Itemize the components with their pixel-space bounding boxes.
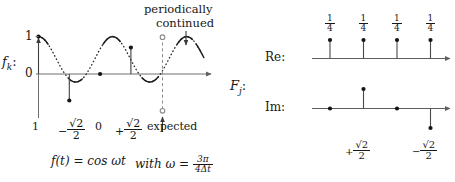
sample-label-k2: 0 (95, 121, 102, 132)
re-value-den-1: 4 (359, 24, 369, 33)
annotation-periodically: periodically (144, 4, 212, 16)
re-value-label-2: 14 (392, 14, 402, 33)
im-dot-0 (328, 106, 332, 110)
sample-dot-k1 (67, 98, 71, 102)
im-value-frac-negative: √22 (420, 140, 437, 161)
re-axis-label: Re: (265, 51, 285, 63)
re-dot-1 (361, 38, 365, 42)
im-axis-label: Im: (265, 101, 285, 113)
curve-arc-peak-2 (103, 37, 120, 45)
sample-label-k3-den: 2 (124, 130, 142, 141)
im-dot-1 (361, 87, 365, 91)
ytick-label-one: 1 (25, 30, 33, 42)
re-value-frac-1: 14 (359, 14, 369, 33)
sample-label-k3: +√22 (115, 118, 142, 141)
right-panel-spectrum (312, 38, 450, 130)
im-dot-2 (395, 106, 399, 110)
spectrum-group-label-colon: : (242, 78, 246, 93)
curve-arc-trough-1 (69, 79, 82, 82)
formula-omega-frac: 3π4Δt (193, 155, 213, 174)
formula-omega-text: with ω = (135, 157, 189, 171)
im-value-sign-negative: − (412, 146, 420, 157)
im-value-label-positive: +√22 (345, 140, 370, 161)
re-value-frac-0: 14 (325, 14, 335, 33)
re-dot-3 (428, 38, 432, 42)
open-marker-bottom (160, 109, 165, 114)
figure-root: fk: 1 0 periodically continued 1 −√22 0 … (0, 0, 455, 182)
formula-omega-den: 4Δt (193, 165, 213, 174)
curve-arc-tail (196, 44, 204, 57)
formula-omega: with ω = 3π4Δt (135, 155, 213, 174)
time-series-axis-label-colon: : (12, 54, 16, 69)
sample-label-k3-sign: + (115, 125, 124, 138)
ytick-label-zero: 0 (25, 67, 33, 79)
sample-label-k1-sign: − (58, 125, 67, 138)
sample-dot-k3 (129, 45, 133, 49)
spectrum-group-label: Fj: (230, 79, 246, 96)
re-value-label-1: 14 (359, 14, 369, 33)
open-marker-top (160, 35, 165, 40)
im-value-den-positive: 2 (353, 151, 370, 161)
sample-label-k0: 1 (32, 121, 39, 132)
sample-label-expected: expected (147, 121, 197, 132)
re-value-den-0: 4 (325, 24, 335, 33)
time-series-axis-label: fk: (2, 55, 17, 72)
re-value-den-2: 4 (392, 24, 402, 33)
sample-label-k1: −√22 (58, 118, 85, 141)
im-value-den-negative: 2 (420, 151, 437, 161)
re-value-frac-2: 14 (392, 14, 402, 33)
sample-label-k3-frac: √22 (124, 118, 142, 141)
re-value-den-3: 4 (426, 24, 436, 33)
re-value-frac-3: 14 (426, 14, 436, 33)
re-dot-0 (328, 38, 332, 42)
curve-arc-trough-3 (142, 77, 158, 82)
im-value-frac-positive: √22 (353, 140, 370, 161)
re-dot-2 (395, 38, 399, 42)
sample-label-k1-frac: √22 (67, 118, 85, 141)
cosine-curve-dotted (39, 37, 201, 82)
sample-dot-k2 (98, 72, 102, 76)
curve-arc-peak-4 (177, 37, 192, 45)
annotation-continued: continued (156, 18, 214, 30)
sample-label-k1-den: 2 (67, 130, 85, 141)
im-value-label-negative: −√22 (412, 140, 437, 161)
left-panel-time-domain (36, 31, 212, 132)
im-dot-3 (428, 126, 432, 130)
re-value-label-3: 14 (426, 14, 436, 33)
re-value-label-0: 14 (325, 14, 335, 33)
formula-function: f(t) = cos ωt (51, 155, 126, 167)
im-value-sign-positive: + (345, 146, 353, 157)
